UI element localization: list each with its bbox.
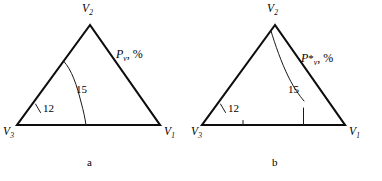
vertex-label-v3-b: V3 bbox=[191, 126, 202, 138]
edge-value-label-12-a: 12 bbox=[43, 103, 54, 114]
curve-value-label-15-b: 15 bbox=[288, 84, 299, 95]
panel-b-drawing bbox=[191, 0, 382, 181]
vertex-label-v2-a: V2 bbox=[82, 3, 93, 15]
edge-tick-b bbox=[221, 104, 226, 113]
figure-container: V2 V3 V1 Pv, % 15 12 a V2 V3 bbox=[0, 0, 382, 181]
panel-caption-b: b bbox=[272, 157, 278, 168]
panel-caption-a: a bbox=[87, 157, 92, 168]
edge-value-label-12-b: 12 bbox=[228, 103, 239, 114]
panel-a: V2 V3 V1 Pv, % 15 12 a bbox=[0, 0, 191, 181]
vertex-label-v2-b: V2 bbox=[267, 3, 278, 15]
vertex-label-v3-a: V3 bbox=[3, 126, 14, 138]
panel-b: V2 V3 V1 P*v, % 15 12 b bbox=[191, 0, 382, 181]
panel-a-drawing bbox=[0, 0, 191, 181]
axis-label-pv-star-b: P*v, % bbox=[301, 52, 333, 64]
curve-value-label-15-a: 15 bbox=[76, 84, 87, 95]
vertex-label-v1-a: V1 bbox=[164, 126, 175, 138]
axis-label-pv-a: Pv, % bbox=[116, 48, 143, 60]
vertex-label-v1-b: V1 bbox=[349, 126, 360, 138]
edge-tick-a bbox=[36, 104, 41, 113]
